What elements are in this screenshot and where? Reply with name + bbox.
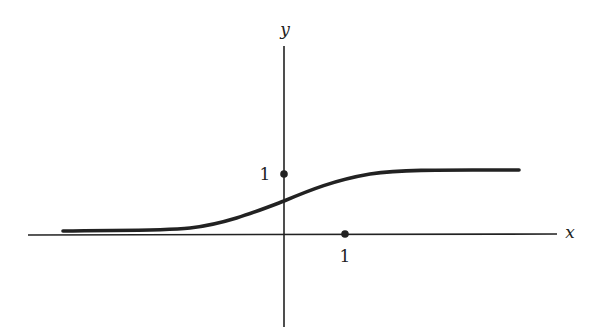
x-one-label: 1	[340, 246, 351, 266]
x-axis	[28, 234, 557, 235]
point-x-one	[341, 230, 349, 238]
function-graph: y x 1 1	[0, 0, 601, 336]
sigmoid-curve	[63, 170, 519, 231]
point-y-one	[280, 170, 288, 178]
y-one-label: 1	[260, 164, 271, 184]
y-axis-label: y	[279, 19, 290, 39]
x-axis-label: x	[565, 222, 575, 242]
